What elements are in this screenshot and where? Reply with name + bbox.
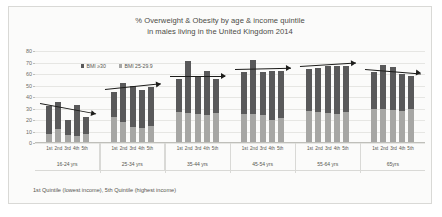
quintile-label: 4th: [203, 146, 209, 151]
bar-segment-obese[interactable]: [380, 65, 386, 109]
stacked-bar[interactable]: [185, 61, 191, 143]
bar-segment-obese[interactable]: [120, 83, 126, 122]
stacked-bar[interactable]: [250, 60, 256, 143]
bar-segment-obese[interactable]: [148, 87, 154, 126]
bar-segment-obese[interactable]: [195, 77, 201, 114]
stacked-bar[interactable]: [74, 105, 80, 143]
category-group: 1st2nd3rd4th5th35-44 yrs: [164, 143, 229, 170]
stacked-bar[interactable]: [408, 76, 414, 143]
bar-segment-obese[interactable]: [278, 71, 284, 118]
trend-arrow-head: [91, 110, 97, 117]
stacked-bar[interactable]: [83, 117, 89, 143]
bar-segment-obese[interactable]: [408, 76, 414, 108]
bar-segment-overweight[interactable]: [195, 114, 201, 143]
bar-segment-overweight[interactable]: [130, 127, 136, 143]
bar-segment-overweight[interactable]: [148, 126, 154, 143]
bar-segment-overweight[interactable]: [334, 114, 340, 143]
bar-segment-overweight[interactable]: [278, 118, 284, 143]
bar-segment-obese[interactable]: [213, 79, 219, 114]
stacked-bar[interactable]: [260, 72, 266, 143]
bar-segment-obese[interactable]: [269, 71, 275, 120]
bar-segment-obese[interactable]: [130, 86, 136, 127]
bar-segment-obese[interactable]: [325, 66, 331, 113]
stacked-bar[interactable]: [269, 71, 275, 143]
stacked-bar[interactable]: [278, 71, 284, 143]
category-group: 1st2nd3rd4th5th45-54 yrs: [230, 143, 295, 170]
stacked-bar[interactable]: [204, 71, 210, 143]
bar-segment-obese[interactable]: [55, 102, 61, 130]
age-group-label: 55-64 yrs: [317, 161, 338, 167]
stacked-bar[interactable]: [120, 83, 126, 143]
bar-segment-overweight[interactable]: [306, 111, 312, 143]
bar-segment-obese[interactable]: [343, 66, 349, 112]
quintile-label-row: 1st2nd3rd4th5th: [231, 143, 295, 151]
bar-segment-obese[interactable]: [306, 69, 312, 110]
bar-segment-obese[interactable]: [65, 120, 71, 135]
bar-segment-overweight[interactable]: [371, 109, 377, 144]
bar-segment-obese[interactable]: [371, 72, 377, 109]
bar-segment-overweight[interactable]: [55, 129, 61, 143]
bar-segment-obese[interactable]: [74, 105, 80, 136]
bar-segment-overweight[interactable]: [213, 113, 219, 143]
bar-segment-overweight[interactable]: [399, 111, 405, 143]
bar-segment-obese[interactable]: [399, 74, 405, 111]
bar-segment-obese[interactable]: [260, 72, 266, 116]
bar-segment-overweight[interactable]: [120, 122, 126, 143]
stacked-bar[interactable]: [176, 79, 182, 143]
bar-segment-overweight[interactable]: [250, 114, 256, 143]
stacked-bar[interactable]: [148, 87, 154, 143]
bar-segment-obese[interactable]: [83, 117, 89, 134]
bar-segment-obese[interactable]: [390, 67, 396, 110]
bar-segment-overweight[interactable]: [204, 115, 210, 143]
stacked-bar[interactable]: [380, 65, 386, 143]
stacked-bar[interactable]: [195, 77, 201, 143]
bar-segment-obese[interactable]: [111, 92, 117, 116]
stacked-bar[interactable]: [55, 102, 61, 143]
bar-segment-obese[interactable]: [334, 66, 340, 114]
stacked-bar[interactable]: [241, 72, 247, 143]
bar-segment-overweight[interactable]: [176, 112, 182, 143]
stacked-bar[interactable]: [130, 86, 136, 144]
quintile-label: 2nd: [55, 146, 63, 151]
stacked-bar[interactable]: [399, 74, 405, 143]
stacked-bar[interactable]: [325, 66, 331, 143]
stacked-bar[interactable]: [65, 120, 71, 143]
bar-segment-obese[interactable]: [315, 68, 321, 112]
quintile-label: 1st: [177, 146, 183, 151]
y-axis-tick-label: 20: [26, 117, 32, 123]
bar-segment-overweight[interactable]: [185, 113, 191, 143]
bar-segment-overweight[interactable]: [139, 128, 145, 143]
bar-segment-overweight[interactable]: [315, 112, 321, 143]
bar-segment-obese[interactable]: [46, 106, 52, 134]
bar-segment-overweight[interactable]: [390, 110, 396, 143]
bar-segment-obese[interactable]: [185, 61, 191, 113]
bar-segment-overweight[interactable]: [241, 114, 247, 143]
bar-segment-obese[interactable]: [204, 71, 210, 116]
bar-segment-obese[interactable]: [241, 72, 247, 115]
bar-segment-overweight[interactable]: [380, 109, 386, 144]
stacked-bar[interactable]: [213, 79, 219, 143]
y-axis-tick-label: 50: [26, 83, 32, 89]
stacked-bar[interactable]: [46, 106, 52, 143]
stacked-bar[interactable]: [315, 68, 321, 143]
bar-segment-overweight[interactable]: [408, 109, 414, 144]
bar-segment-obese[interactable]: [250, 60, 256, 114]
bar-segment-overweight[interactable]: [325, 113, 331, 143]
stacked-bar[interactable]: [343, 66, 349, 143]
bar-segment-overweight[interactable]: [111, 117, 117, 143]
bar-segment-overweight[interactable]: [260, 115, 266, 143]
quintile-label: 3rd: [390, 146, 397, 151]
stacked-bar[interactable]: [111, 92, 117, 143]
stacked-bar[interactable]: [371, 72, 377, 143]
quintile-label: 3rd: [64, 146, 71, 151]
bar-segment-overweight[interactable]: [269, 120, 275, 143]
bar-segment-obese[interactable]: [139, 90, 145, 128]
bar-segment-obese[interactable]: [176, 79, 182, 112]
stacked-bar[interactable]: [139, 90, 145, 143]
chart-title-line-1: % Overweight & Obesity by age & income q…: [9, 16, 431, 27]
stacked-bar[interactable]: [306, 69, 312, 143]
stacked-bar[interactable]: [390, 67, 396, 143]
stacked-bar[interactable]: [334, 66, 340, 143]
y-axis-tick-label: 30: [26, 106, 32, 112]
bar-segment-overweight[interactable]: [343, 112, 349, 143]
